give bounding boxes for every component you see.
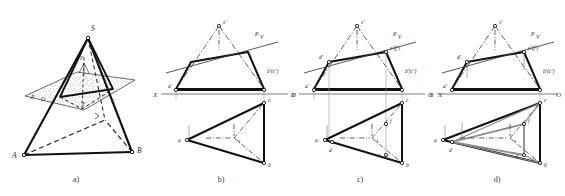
cutting-plane-P [25,72,135,110]
point-f-top-c [384,122,387,125]
label-b-top-c: b [406,162,409,168]
point-c-top-d [538,101,541,104]
label-f-top-d: f [528,118,531,124]
point-b-top-c [400,161,403,164]
label-b-top-b: b [268,162,271,168]
point-ef-front-d [522,50,525,53]
geometry-figure: S A B P D C E F a) X O s' P V a' b'(c') [0,0,565,196]
label-d-top-d: d [449,147,452,153]
label-a-top-c: a [315,137,318,143]
label-ef-front-d: e'(f') [528,45,538,52]
label-plane-trace-d: P [530,31,535,37]
label-s-top-c: s [376,138,378,144]
label-plane-trace-c: P [392,31,397,37]
section-rays-d [452,103,540,163]
panel-d: X O s' P V d' e'(f') a' b'(c') [428,19,561,184]
label-a-top-d: a [434,137,437,143]
label-apex-S: S [91,24,95,33]
point-e-top-c [384,153,387,156]
label-plane-trace-sub-b: V [260,34,264,40]
point-s-front-c [355,24,358,27]
panel-c: X O X s' P V d' e'(f') a' b'(c') [290,19,443,184]
panel-b: X O s' P V a' b'(c') a c b s b) [152,19,296,184]
top-view-center-edges-b [234,103,264,163]
label-plane-trace-sub-c: V [398,34,402,40]
point-a-front-c [312,88,315,91]
label-d-top-c: d [329,147,332,153]
point-f-top-d [522,122,525,125]
label-c-top-b: c [268,97,271,103]
vertex-B [130,150,133,153]
label-cut-F: F [79,55,84,61]
axis-label-o-d: O [556,91,561,99]
vertex-A [22,153,25,156]
top-view-center-mark-b [206,124,234,138]
axis-label-x-c: X [290,91,296,99]
axis-label-x-b: X [152,91,158,99]
label-a-front-c: a' [305,83,310,89]
label-s-front-c: s' [361,19,365,25]
right-angle-mark-a [95,113,99,119]
label-s-front-d: s' [499,19,503,25]
label-cut-D: D [40,96,45,102]
axis-label-x-d: X [428,91,434,99]
top-view-outline-c [325,103,402,163]
label-d-front-d: d' [457,54,462,60]
label-plane-trace-b: P [254,31,259,37]
label-b-top-d: b [544,162,547,168]
label-cut-C: C [111,98,115,104]
label-a-front-b: a' [168,83,173,89]
label-plane-trace-sub-d: V [536,34,540,40]
label-d-front-c: d' [319,54,324,60]
point-s-front-d [493,24,496,27]
label-s-top-d: s [514,138,516,144]
front-view-outline-d [452,52,540,89]
axis-label-x2-c: X [437,91,443,99]
label-cut-E: E [81,101,86,107]
top-view-outline-b [187,103,264,163]
front-view-outline-c [314,52,402,89]
caption-b: b) [218,175,225,184]
label-a-front-d: a' [443,83,448,89]
point-bc-front-d [538,88,541,91]
point-d-front-d [465,60,468,63]
point-d-front-c [327,60,330,63]
point-d-top-d [450,140,453,143]
point-d-top-c [330,140,333,143]
caption-d: d) [494,175,501,184]
point-c-top-c [400,101,403,104]
label-base-A: A [11,151,17,160]
vertex-S [86,36,89,39]
plane-trace-pv-b [166,42,278,73]
point-a-top-d [441,138,444,141]
panel-a: S A B P D C E F a) [11,24,142,184]
label-bc-front-b: b'(c') [267,68,279,75]
label-a-top-b: a [178,137,181,143]
point-b-top-b [262,161,265,164]
hidden-edge-b-c [105,120,132,152]
caption-c: c) [357,175,364,184]
label-ef-front-c: e'(f') [390,45,400,52]
label-c-top-d: c [544,97,547,103]
label-s-front-b: s' [223,19,227,25]
point-s-front-b [217,24,220,27]
label-bc-front-c: b'(c') [405,68,417,75]
point-a-front-d [450,88,453,91]
point-bc-front-c [400,88,403,91]
point-c-top-b [262,101,265,104]
point-ef-front-c [384,50,387,53]
label-s-top-b: s [238,138,240,144]
front-view-outline-b [176,52,264,89]
label-plane-P: P [30,94,35,100]
point-bc-front-b [262,88,265,91]
point-a-top-c [323,138,326,141]
label-bc-front-d: b'(c') [543,68,555,75]
point-e-top-d [522,153,525,156]
caption-a: a) [73,175,80,184]
label-base-B: B [137,146,142,155]
hidden-edge-a-c [24,120,105,155]
point-b-top-d [538,161,541,164]
label-f-top-c: f [390,118,393,124]
point-a-front-b [174,88,177,91]
point-a-top-b [185,138,188,141]
